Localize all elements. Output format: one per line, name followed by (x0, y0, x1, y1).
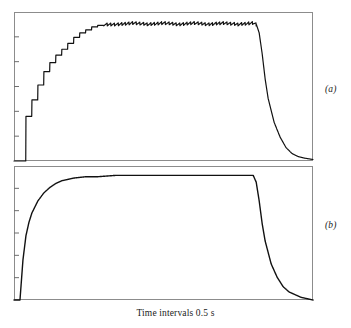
plot-panel-b (14, 166, 313, 300)
plot-a-frame (15, 13, 313, 161)
plot-b-canvas (14, 166, 313, 300)
plot-a-canvas (14, 12, 313, 161)
panel-label-b: (b) (325, 220, 337, 230)
x-axis-caption: Time intervals 0.5 s (0, 308, 351, 318)
figure-root: (a) (b) Time intervals 0.5 s (0, 0, 351, 328)
panel-label-a: (a) (325, 84, 337, 94)
plot-b-frame (15, 167, 313, 300)
plot-panel-a (14, 12, 313, 161)
